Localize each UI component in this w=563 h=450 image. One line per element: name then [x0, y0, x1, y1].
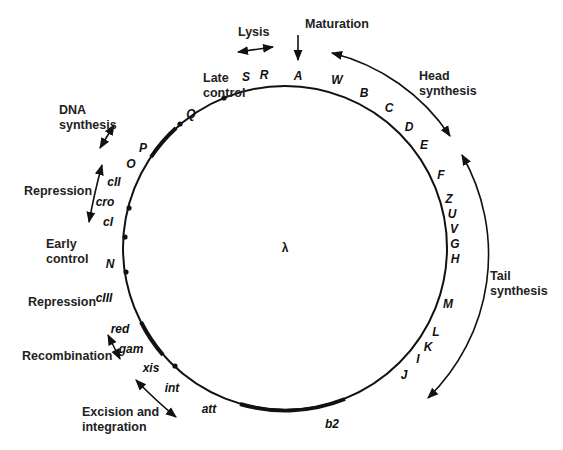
gene-label-z: Z	[444, 192, 453, 206]
gene-label-l: L	[432, 325, 439, 339]
thick-segment-red-gam	[141, 322, 163, 355]
marker-dot	[122, 234, 127, 239]
gene-label-cro: cro	[96, 195, 115, 209]
gene-label-i: I	[416, 352, 420, 366]
thick-segment-p-q	[151, 128, 176, 157]
gene-label-n: N	[106, 257, 115, 271]
gene-labels: ARSWBCDEFZUVGHMLKIJb2attintxisgamredcIII…	[96, 68, 460, 431]
gene-label-s: S	[242, 70, 250, 84]
marker-dot	[172, 363, 177, 368]
gene-label-b: B	[360, 86, 369, 100]
gene-label-r: R	[260, 68, 269, 82]
gene-label-k: K	[424, 340, 434, 354]
gene-label-w: W	[331, 73, 344, 87]
gene-label-red: red	[111, 322, 130, 336]
thick-segment-b2	[240, 399, 345, 410]
gene-label-o: O	[126, 157, 136, 171]
excision-integration-label: Excision andintegration	[82, 405, 159, 434]
gene-label-j: J	[401, 368, 408, 382]
gene-label-int: int	[165, 381, 181, 395]
late-control-label: Latecontrol	[203, 71, 245, 100]
gene-label-h: H	[451, 252, 460, 266]
lysis-label: Lysis	[238, 25, 270, 39]
recombination-label: Recombination	[22, 349, 112, 363]
center-lambda-label: λ	[282, 241, 289, 255]
gene-label-b2: b2	[325, 417, 339, 431]
gene-label-a: A	[293, 69, 303, 83]
gene-label-p: P	[139, 141, 148, 155]
head-synthesis-label: Headsynthesis	[419, 69, 477, 98]
function-labels: MaturationLysisLatecontrolHeadsynthesisT…	[22, 17, 548, 434]
marker-dot	[177, 121, 182, 126]
repression-upper-label: Repression	[24, 184, 92, 198]
gene-label-u: U	[448, 207, 457, 221]
gene-label-d: D	[405, 120, 414, 134]
gene-label-e: E	[420, 138, 429, 152]
gene-label-ci: cI	[103, 215, 114, 229]
gene-label-q: Q	[186, 107, 196, 121]
gene-label-g: G	[450, 237, 459, 251]
gene-label-xis: xis	[142, 361, 160, 375]
marker-dot	[126, 205, 131, 210]
gene-label-cii: cII	[107, 175, 121, 189]
repression-lower-label: Repression	[28, 295, 96, 309]
gene-label-ciii: cIII	[96, 291, 113, 305]
dna-synthesis-label: DNAsynthesis	[59, 103, 117, 132]
lysis-arrow	[238, 47, 273, 52]
marker-dot	[123, 269, 128, 274]
maturation-label: Maturation	[305, 17, 369, 31]
gene-label-gam: gam	[118, 342, 144, 356]
tail-synthesis-label: Tailsynthesis	[490, 269, 548, 298]
early-control-label: Earlycontrol	[46, 237, 88, 266]
gene-label-att: att	[202, 402, 218, 416]
lambda-genetic-map: λ ARSWBCDEFZUVGHMLKIJb2attintxisgamredcI…	[0, 0, 563, 450]
gene-label-c: C	[385, 101, 394, 115]
gene-label-v: V	[450, 222, 459, 236]
gene-label-m: M	[443, 297, 454, 311]
gene-label-f: F	[437, 168, 445, 182]
